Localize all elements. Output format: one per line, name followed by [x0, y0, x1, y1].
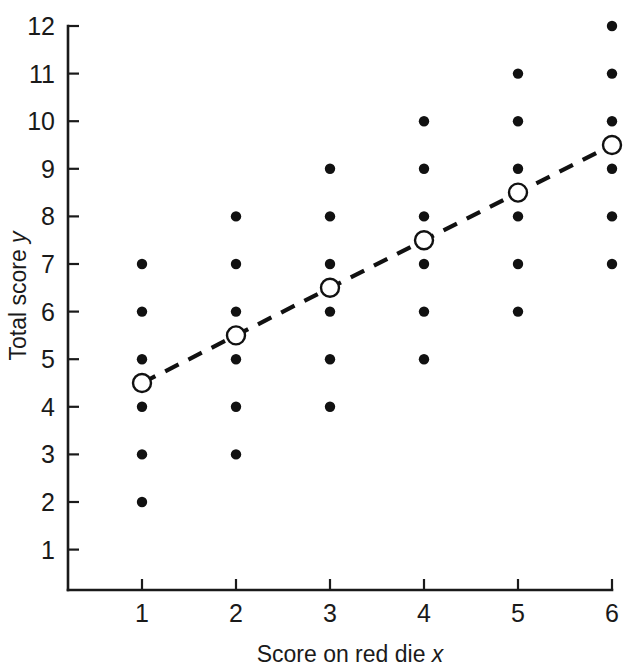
data-point [419, 211, 429, 221]
y-tick-label-5: 5 [41, 345, 55, 373]
x-tick-label-2: 2 [229, 599, 243, 627]
mean-trend-line [142, 145, 612, 383]
axis-titles: Score on red die xTotal score y [5, 230, 445, 667]
x-axis-title-variable: x [431, 641, 445, 667]
mean-marker [321, 279, 339, 297]
data-point [419, 354, 429, 364]
data-point [231, 449, 241, 459]
data-point [419, 306, 429, 316]
mean-trend-path [142, 145, 612, 383]
x-axis-title: Score on red die x [257, 641, 445, 667]
data-point [513, 164, 523, 174]
data-point [325, 164, 335, 174]
plot-canvas: 123456789101112 123456 Score on red die … [0, 0, 636, 669]
y-tick-label-10: 10 [27, 107, 55, 135]
x-tick-label-4: 4 [417, 599, 431, 627]
x-tick-label-6: 6 [605, 599, 619, 627]
data-point [607, 116, 617, 126]
data-point [607, 68, 617, 78]
mean-marker [415, 231, 433, 249]
y-tick-label-1: 1 [41, 536, 55, 564]
y-axis-title-variable: y [5, 230, 31, 245]
data-point [325, 306, 335, 316]
y-axis-title-text: Total score [5, 243, 31, 361]
data-point [137, 306, 147, 316]
data-point [513, 306, 523, 316]
data-point [231, 211, 241, 221]
mean-marker [133, 374, 151, 392]
data-point [419, 164, 429, 174]
x-axis: 123456 [68, 579, 619, 627]
data-point [325, 354, 335, 364]
y-tick-label-11: 11 [29, 60, 55, 88]
y-tick-label-9: 9 [41, 155, 55, 183]
data-point [231, 259, 241, 269]
data-point [607, 211, 617, 221]
y-axis: 123456789101112 [27, 12, 79, 590]
data-point [419, 259, 429, 269]
scatter-plot-figure: 123456789101112 123456 Score on red die … [0, 0, 636, 669]
data-point [231, 402, 241, 412]
mean-marker [603, 136, 621, 154]
y-tick-label-2: 2 [41, 488, 55, 516]
data-point [137, 354, 147, 364]
y-tick-label-7: 7 [41, 250, 55, 278]
data-point [325, 211, 335, 221]
data-point [607, 259, 617, 269]
data-point [137, 497, 147, 507]
data-point [137, 449, 147, 459]
y-tick-label-3: 3 [41, 440, 55, 468]
data-point [325, 259, 335, 269]
data-point [231, 306, 241, 316]
data-point [231, 354, 241, 364]
x-tick-label-1: 1 [135, 599, 149, 627]
x-tick-label-5: 5 [511, 599, 525, 627]
data-point [513, 116, 523, 126]
data-point [513, 211, 523, 221]
data-point [513, 68, 523, 78]
y-tick-label-4: 4 [41, 393, 55, 421]
y-tick-label-6: 6 [41, 298, 55, 326]
data-point [513, 259, 523, 269]
data-point [137, 402, 147, 412]
data-point [419, 116, 429, 126]
mean-marker [509, 184, 527, 202]
data-point [137, 259, 147, 269]
mean-marker [227, 326, 245, 344]
y-tick-label-12: 12 [27, 12, 55, 40]
y-tick-label-8: 8 [41, 202, 55, 230]
data-point [607, 164, 617, 174]
x-tick-label-3: 3 [323, 599, 337, 627]
data-point [325, 402, 335, 412]
x-axis-title-text: Score on red die [257, 641, 432, 667]
y-axis-title: Total score y [5, 230, 31, 361]
data-point [607, 21, 617, 31]
